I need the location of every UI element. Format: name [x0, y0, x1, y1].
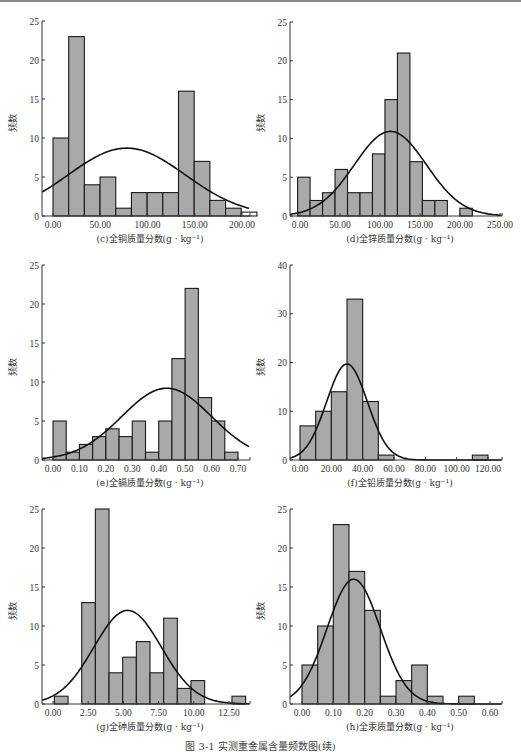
y-tick-label: 10 [30, 378, 40, 388]
y-tick-label: 25 [30, 17, 40, 27]
x-tick-label: 150.00 [407, 220, 433, 230]
x-tick-label: 0.60 [482, 708, 499, 718]
x-tick-label: 0.00 [45, 220, 62, 230]
x-tick-label: 120.00 [475, 464, 501, 474]
y-tick-label: 10 [278, 134, 288, 144]
histogram-c-copper: 05101520250.0050.00100.00150.00200.00频数(… [0, 0, 260, 245]
histogram-bar [100, 177, 116, 216]
y-tick-label: 20 [30, 300, 40, 310]
y-tick-label: 15 [30, 583, 40, 593]
histogram-bar [147, 193, 163, 216]
y-tick-label: 10 [30, 622, 40, 632]
y-tick-label: 0 [34, 700, 39, 710]
y-tick-label: 15 [30, 339, 40, 349]
y-tick-label: 0 [282, 456, 287, 466]
x-tick-label: 0.50 [450, 708, 467, 718]
x-tick-label: 150.00 [182, 220, 208, 230]
y-axis-title: 频数 [7, 114, 18, 132]
x-tick-label: 5.00 [115, 708, 132, 718]
y-tick-label: 40 [278, 261, 288, 271]
histogram-bar [82, 603, 96, 704]
histogram-bar [123, 657, 137, 704]
x-tick-label: 0.00 [292, 464, 309, 474]
y-tick-label: 0 [34, 212, 39, 222]
histogram-bar [372, 154, 384, 216]
x-tick-label: 100.00 [134, 220, 160, 230]
y-axis-title: 频数 [7, 602, 18, 620]
histogram-bar [348, 193, 360, 216]
histogram-bar [380, 696, 396, 704]
x-tick-label: 200.00 [447, 220, 473, 230]
histogram-bars [302, 525, 474, 704]
histogram-bar [95, 509, 109, 704]
histogram-d-zinc: 05101520250.0050.00100.00150.00200.00250… [248, 0, 521, 245]
y-tick-label: 10 [278, 407, 288, 417]
histogram-bar [146, 452, 159, 460]
histogram-f-lead: 0102030400.0020.0040.0060.0080.00100.001… [248, 244, 521, 489]
x-tick-label: 0.30 [124, 464, 141, 474]
histogram-bar [459, 696, 475, 704]
y-tick-label: 10 [278, 622, 288, 632]
histogram-bar [54, 696, 68, 704]
x-axis-title: (g)全砷质量分数(g · kg⁻¹) [96, 721, 204, 732]
histogram-bar [365, 610, 381, 704]
histogram-bar [422, 200, 434, 216]
figure-caption: 图 3-1 实测重金属含量频数图(续) [0, 738, 521, 753]
histogram-bar [69, 37, 85, 216]
y-tick-label: 5 [34, 173, 39, 183]
histogram-bar [316, 411, 332, 460]
x-tick-label: 0.60 [203, 464, 220, 474]
y-tick-label: 20 [278, 358, 288, 368]
y-tick-label: 20 [30, 56, 40, 66]
histogram-bar [226, 208, 242, 216]
x-tick-label: 0.50 [177, 464, 194, 474]
y-tick-label: 20 [278, 544, 288, 554]
x-axis-title: (h)全汞质量分数(g · kg⁻¹) [346, 721, 454, 732]
histogram-bar [360, 193, 372, 216]
y-axis-title: 频数 [255, 358, 266, 376]
x-tick-label: 0.00 [292, 220, 309, 230]
y-tick-label: 30 [278, 309, 288, 319]
x-tick-label: 100.00 [367, 220, 393, 230]
x-axis-title: (f)全铅质量分数(g · kg⁻¹) [347, 477, 452, 488]
y-tick-label: 0 [34, 456, 39, 466]
histogram-h-mercury: 05101520250.000.100.200.300.400.500.60频数… [248, 488, 521, 733]
x-tick-label: 60.00 [383, 464, 405, 474]
y-tick-label: 5 [34, 661, 39, 671]
histogram-bar [119, 437, 132, 460]
x-tick-label: 0.40 [150, 464, 167, 474]
histogram-bar [132, 421, 145, 460]
x-tick-label: 40.00 [352, 464, 374, 474]
y-tick-label: 5 [282, 661, 287, 671]
histogram-bar [198, 398, 211, 460]
histogram-bars [53, 37, 257, 216]
x-axis-title: (d)全锌质量分数(g · kg⁻¹) [346, 233, 454, 244]
x-tick-label: 2.50 [80, 708, 97, 718]
y-tick-label: 15 [278, 95, 288, 105]
histogram-bar [331, 392, 347, 460]
x-tick-label: 10.00 [183, 708, 205, 718]
y-tick-label: 25 [278, 18, 288, 28]
x-tick-label: 20.00 [321, 464, 343, 474]
x-tick-label: 12.50 [218, 708, 240, 718]
x-axis-title: (e)全镉质量分数(g · kg⁻¹) [96, 477, 203, 488]
histogram-bar [163, 193, 179, 216]
x-tick-label: 0.10 [71, 464, 88, 474]
histogram-bar [185, 288, 198, 460]
histogram-bar [378, 455, 394, 460]
y-tick-label: 15 [30, 95, 40, 105]
y-tick-label: 10 [30, 134, 40, 144]
histogram-bar [84, 185, 100, 216]
y-tick-label: 25 [30, 261, 40, 271]
y-tick-label: 15 [278, 583, 288, 593]
histogram-bar [385, 100, 397, 216]
histogram-e-cadmium: 05101520250.000.100.200.300.400.500.600.… [0, 244, 260, 489]
y-axis-title: 频数 [255, 602, 266, 620]
histogram-bar [347, 299, 363, 460]
x-tick-label: 50.00 [329, 220, 351, 230]
x-tick-label: 0.40 [419, 708, 436, 718]
y-tick-label: 5 [282, 173, 287, 183]
y-tick-label: 25 [278, 505, 288, 515]
histogram-bar [159, 421, 172, 460]
histogram-bar [136, 642, 150, 704]
